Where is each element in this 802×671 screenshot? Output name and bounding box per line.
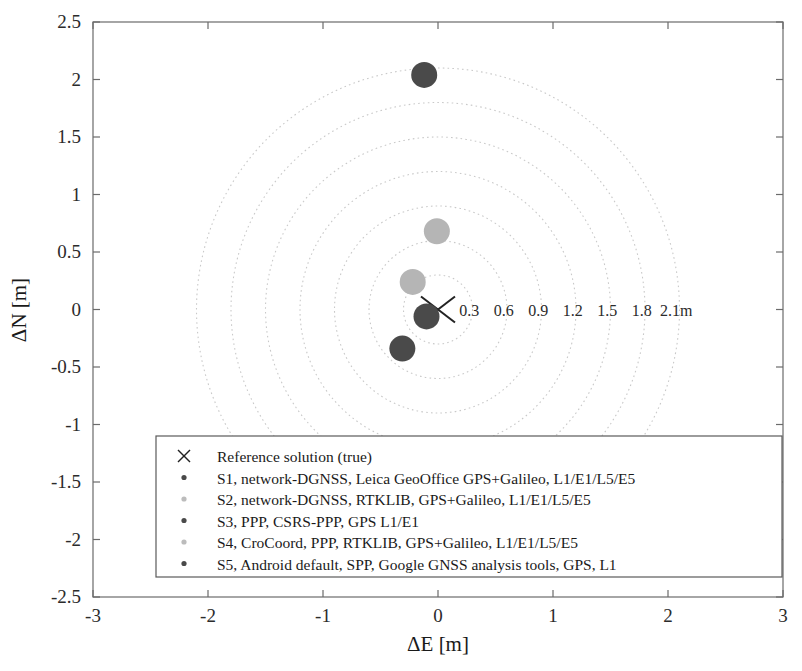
y-tick-label: 2 xyxy=(72,69,82,90)
x-tick-label: 3 xyxy=(778,605,788,626)
legend-marker-dot-icon xyxy=(181,475,186,480)
data-point-4 xyxy=(424,218,450,244)
y-tick-label: -1 xyxy=(65,414,81,435)
x-tick-label: -2 xyxy=(200,605,216,626)
data-points xyxy=(389,62,455,362)
ring-label: 0.3 xyxy=(459,302,479,319)
y-tick-label: 2.5 xyxy=(57,11,81,32)
ring-label: 0.9 xyxy=(528,302,548,319)
legend-entry-label: Reference solution (true) xyxy=(217,448,372,466)
data-point-3 xyxy=(389,336,415,362)
ring-label: 2.1m xyxy=(660,302,693,319)
legend-marker-dot-icon xyxy=(181,561,186,566)
ring-label: 1.2 xyxy=(563,302,583,319)
legend-entry-label: S1, network-DGNSS, Leica GeoOffice GPS+G… xyxy=(217,470,636,487)
y-axis-title: ΔN [m] xyxy=(7,278,31,342)
x-tick-label: -3 xyxy=(85,605,101,626)
data-point-5 xyxy=(411,62,437,88)
y-tick-label: -2 xyxy=(65,529,81,550)
ring-labels: 0.30.60.91.21.51.82.1m xyxy=(459,302,693,319)
data-point-1 xyxy=(414,303,440,329)
x-tick-label: 0 xyxy=(433,605,443,626)
legend-marker-dot-icon xyxy=(181,496,186,501)
y-tick-label: -2.5 xyxy=(51,586,81,607)
x-axis-title: ΔE [m] xyxy=(407,632,469,656)
y-tick-label: 1.5 xyxy=(57,126,81,147)
figure-container: -3-2-10123 -2.5-2-1.5-1-0.500.511.522.5 … xyxy=(0,0,802,671)
x-tick-label: 2 xyxy=(663,605,673,626)
ring-label: 0.6 xyxy=(494,302,514,319)
scatter-plot: -3-2-10123 -2.5-2-1.5-1-0.500.511.522.5 … xyxy=(0,0,802,671)
legend-entry-label: S3, PPP, CSRS-PPP, GPS L1/E1 xyxy=(217,513,419,530)
y-tick-label: -0.5 xyxy=(51,356,81,377)
x-tick-label: 1 xyxy=(548,605,558,626)
y-tick-label: 0.5 xyxy=(57,241,81,262)
legend-entry-label: S4, CroCoord, PPP, RTKLIB, GPS+Galileo, … xyxy=(217,534,578,551)
ring-label: 1.5 xyxy=(597,302,617,319)
legend: Reference solution (true)S1, network-DGN… xyxy=(156,436,782,577)
y-tick-label: 1 xyxy=(72,184,82,205)
x-tick-label: -1 xyxy=(315,605,331,626)
y-tick-label: 0 xyxy=(72,299,82,320)
legend-entry-label: S5, Android default, SPP, Google GNSS an… xyxy=(217,556,617,573)
legend-entry-label: S2, network-DGNSS, RTKLIB, GPS+Galileo, … xyxy=(217,491,591,508)
legend-marker-dot-icon xyxy=(181,518,186,523)
ring-label: 1.8 xyxy=(632,302,652,319)
legend-marker-dot-icon xyxy=(181,539,186,544)
y-tick-label: -1.5 xyxy=(51,471,81,492)
data-point-2 xyxy=(400,269,426,295)
